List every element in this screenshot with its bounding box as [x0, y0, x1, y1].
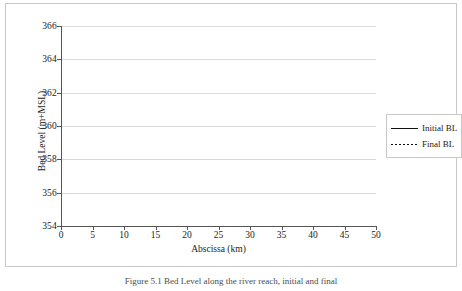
- y-tick-label: 366: [42, 21, 57, 31]
- plot-area: [61, 26, 376, 226]
- gridline-y: [61, 126, 376, 127]
- y-axis-title-wrapper: Bed Level (m+MSL): [20, 44, 34, 204]
- gridline-y: [61, 59, 376, 60]
- y-axis-line: [61, 26, 62, 226]
- x-axis-title: Abscissa (km): [61, 244, 376, 254]
- y-tick: [57, 93, 61, 94]
- gridline-y: [61, 193, 376, 194]
- x-tick-label: 10: [119, 230, 129, 240]
- x-tick-label: 35: [277, 230, 287, 240]
- x-tick-label: 20: [182, 230, 192, 240]
- x-tick-label: 25: [214, 230, 224, 240]
- legend-item: Final BL: [391, 136, 457, 152]
- x-tick-label: 15: [151, 230, 161, 240]
- x-tick-label: 50: [371, 230, 381, 240]
- y-tick: [57, 193, 61, 194]
- figure-frame: 354356358360362364366 Bed Level (m+MSL) …: [5, 3, 457, 267]
- x-tick-label: 40: [308, 230, 318, 240]
- legend-label: Initial BL: [422, 123, 457, 133]
- y-tick: [57, 159, 61, 160]
- y-tick-label: 354: [42, 221, 57, 231]
- legend-swatch-solid: [391, 125, 418, 132]
- x-tick-label: 45: [340, 230, 350, 240]
- figure-caption: Figure 5.1 Bed Level along the river rea…: [0, 276, 462, 286]
- y-tick: [57, 26, 61, 27]
- legend-swatch-dotted: [391, 141, 418, 148]
- x-tick-label: 30: [245, 230, 255, 240]
- gridline-y: [61, 159, 376, 160]
- x-tick-label: 0: [59, 230, 64, 240]
- gridline-y: [61, 26, 376, 27]
- y-axis-title: Bed Level (m+MSL): [37, 61, 47, 201]
- legend-label: Final BL: [422, 139, 454, 149]
- chart-legend: Initial BLFinal BL: [386, 114, 462, 158]
- x-tick-label: 5: [90, 230, 95, 240]
- y-tick: [57, 126, 61, 127]
- gridline-y: [61, 93, 376, 94]
- x-axis-tick-labels: 05101520253035404550: [61, 226, 377, 242]
- y-tick: [57, 59, 61, 60]
- figure-container: 354356358360362364366 Bed Level (m+MSL) …: [0, 0, 462, 291]
- legend-item: Initial BL: [391, 120, 457, 136]
